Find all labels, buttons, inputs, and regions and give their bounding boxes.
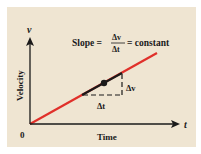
origin-label: 0 [20,130,25,140]
data-point [101,80,107,86]
y-axis-label: Velocity [15,70,25,101]
x-axis-symbol: t [184,119,188,130]
slope-denominator: Δt [112,45,120,54]
slope-label: Slope = [72,38,102,48]
delta-v-label: Δv [126,83,136,93]
y-axis-symbol: v [27,24,32,35]
slope-suffix: = constant [127,38,170,48]
x-axis-label: Time [97,132,117,142]
delta-t-label: Δt [97,101,105,111]
velocity-time-graph: v t 0 Time Velocity Slope = Δv Δt = cons… [0,0,201,154]
slope-numerator: Δv [112,33,121,42]
